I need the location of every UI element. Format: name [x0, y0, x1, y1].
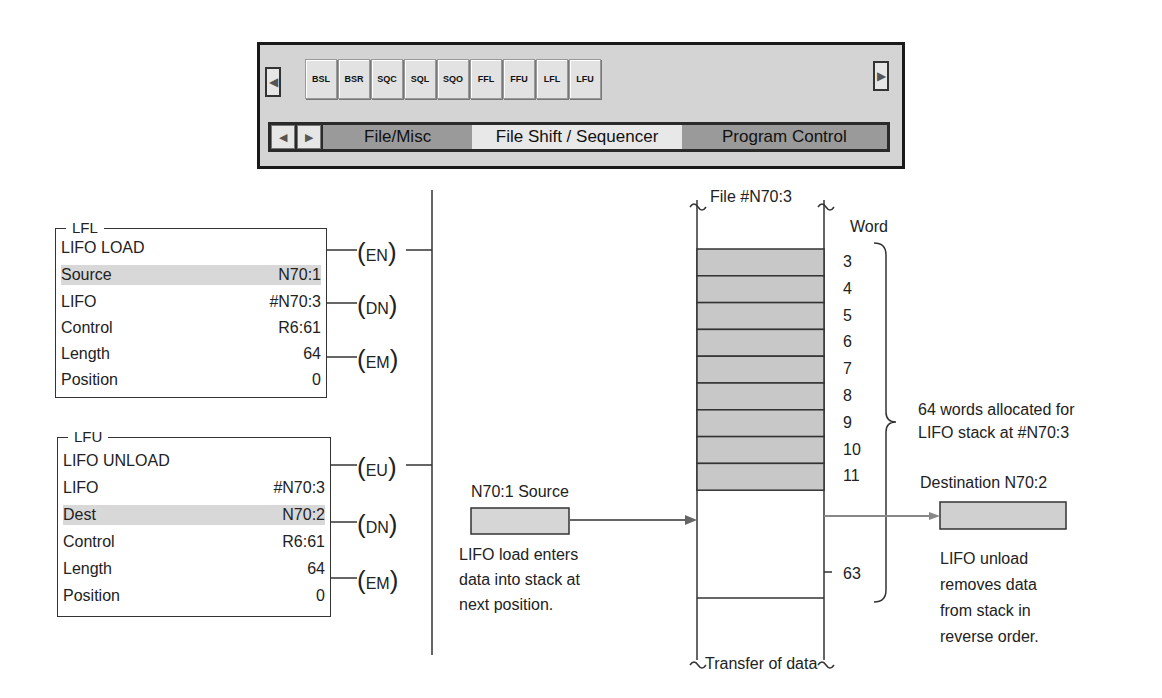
stack-word-cell: [697, 463, 824, 490]
brace-icon: [874, 243, 896, 602]
lfl-row-length: Length64: [61, 344, 321, 364]
source-label: N70:1 Source: [471, 480, 569, 504]
stack-word-cell: [697, 249, 824, 276]
lfu-row-position: Position0: [63, 586, 325, 606]
lfu-instruction-block[interactable]: LFU LIFO UNLOAD LIFO#N70:3 DestN70:2 Con…: [57, 437, 331, 617]
source-register-box: [471, 508, 569, 534]
stack-rows: [697, 249, 824, 490]
stack-word-cell: [697, 437, 824, 464]
stack-word-cell: [697, 276, 824, 303]
dest-note-line3: from stack in: [940, 599, 1031, 623]
coil-en: (EN): [357, 237, 397, 268]
coil-eu: (EU): [357, 452, 397, 483]
allocation-note-line1: 64 words allocated for: [918, 398, 1075, 422]
lfl-row-control: ControlR6:61: [61, 318, 321, 338]
coil-dn: (DN): [357, 290, 397, 321]
word-number: 6: [843, 330, 852, 354]
lfu-row-length: Length64: [63, 559, 325, 579]
arrow-head-icon: [929, 512, 940, 520]
lfl-row-lifo: LIFO#N70:3: [61, 292, 321, 312]
source-note-line1: LIFO load enters: [459, 543, 578, 567]
coil-em: (EM): [357, 344, 398, 375]
source-note-line2: data into stack at: [459, 568, 580, 592]
break-mark-icon: [818, 662, 834, 668]
lfl-row-source: SourceN70:1: [61, 265, 321, 285]
lfl-row-position: Position0: [61, 370, 321, 390]
word-number: 4: [843, 277, 852, 301]
destination-label: Destination N70:2: [920, 471, 1047, 495]
word-number: 3: [843, 250, 852, 274]
word-label: Word: [850, 215, 888, 239]
lfu-row-dest: DestN70:2: [63, 505, 325, 525]
word-number: 5: [843, 304, 852, 328]
break-mark-icon: [690, 204, 706, 210]
word-number: 10: [843, 438, 861, 462]
source-note-line3: next position.: [459, 593, 553, 617]
break-mark-icon: [690, 662, 706, 668]
lfu-title: LIFO UNLOAD: [63, 452, 170, 470]
lfu-row-control: ControlR6:61: [63, 532, 325, 552]
file-label: File #N70:3: [710, 185, 792, 209]
coil-dn: (DN): [357, 509, 397, 540]
stack-word-cell: [697, 329, 824, 356]
dest-note-line2: removes data: [940, 573, 1037, 597]
dest-note-line4: reverse order.: [940, 625, 1039, 649]
lfl-mnemonic: LFL: [66, 219, 104, 236]
stack-word-cell: [697, 303, 824, 330]
coil-em: (EM): [357, 565, 398, 596]
arrow-head-icon: [685, 515, 697, 525]
stack-word-cell: [697, 356, 824, 383]
word-number-last: 63: [843, 562, 861, 586]
lfl-title: LIFO LOAD: [61, 239, 145, 257]
dest-note-line1: LIFO unload: [940, 547, 1028, 571]
word-number: 9: [843, 411, 852, 435]
word-number: 8: [843, 384, 852, 408]
word-number: 7: [843, 357, 852, 381]
break-mark-icon: [818, 204, 834, 210]
stack-word-cell: [697, 410, 824, 437]
word-number: 11: [843, 464, 860, 488]
stack-word-cell: [697, 383, 824, 410]
lfu-mnemonic: LFU: [68, 428, 108, 445]
lfl-instruction-block[interactable]: LFL LIFO LOAD SourceN70:1 LIFO#N70:3 Con…: [55, 228, 327, 398]
transfer-caption: Transfer of data: [705, 652, 817, 676]
allocation-note-line2: LIFO stack at #N70:3: [918, 421, 1069, 445]
lfu-row-lifo: LIFO#N70:3: [63, 478, 325, 498]
destination-register-box: [940, 502, 1066, 529]
